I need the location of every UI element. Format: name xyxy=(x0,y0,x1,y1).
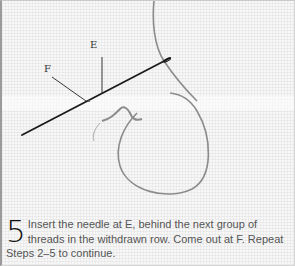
thread-connector xyxy=(93,123,100,141)
label-f: F xyxy=(44,63,51,74)
label-e: E xyxy=(90,39,97,50)
step-instructions: Insert the needle at E, behind the next … xyxy=(6,218,283,259)
leader-line-f xyxy=(52,77,86,101)
illustration-panel: E F 5 Insert the needle at E, behind the… xyxy=(0,0,295,266)
step-caption: 5 Insert the needle at E, behind the nex… xyxy=(6,217,291,261)
point-marker xyxy=(88,100,90,102)
thread-loop xyxy=(118,93,208,194)
thread-strand xyxy=(153,1,197,101)
step-number: 5 xyxy=(6,217,26,245)
